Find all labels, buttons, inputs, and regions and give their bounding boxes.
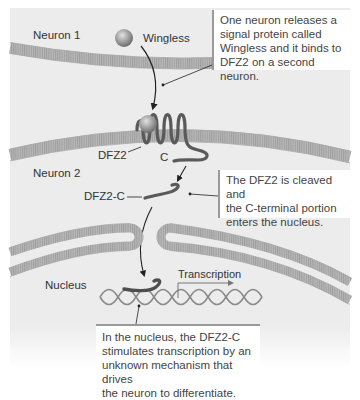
- binding-arrow: [141, 46, 156, 108]
- callout-transcription: In the nucleus, the DFZ2-C stimulates tr…: [96, 324, 260, 386]
- bound-wingless-icon: [139, 115, 157, 133]
- transcription-label: Transcription: [178, 269, 241, 280]
- dna-helix-icon: [100, 290, 262, 305]
- callout2-line: enters the nucleus.: [226, 215, 344, 229]
- dfz2c-label: DFZ2-C: [84, 191, 125, 203]
- callout1-line: One neuron releases a: [220, 13, 346, 27]
- dfz2-label: DFZ2: [98, 150, 127, 162]
- callout3-line: In the nucleus, the DFZ2-C: [102, 330, 254, 344]
- wingless-label: Wingless: [143, 33, 190, 45]
- neuron1-label: Neuron 1: [33, 30, 80, 42]
- transcription-arrow: [178, 283, 232, 298]
- callout1-line: Wingless and it binds to: [220, 41, 346, 55]
- callout2-line: the C-terminal portion: [226, 201, 344, 215]
- callout1-line: signal protein called: [220, 27, 346, 41]
- nucleus-label: Nucleus: [45, 280, 87, 292]
- dfz2c-on-dna-icon: [124, 280, 160, 291]
- c-terminal-label: C: [160, 152, 168, 164]
- callout1-line: DFZ2 on a second neuron.: [220, 55, 346, 83]
- neuron2-label: Neuron 2: [33, 168, 80, 180]
- callout3-line: stimulates transcription by an: [102, 344, 254, 358]
- nuclear-envelope: [10, 224, 350, 305]
- dfz2c-fragment-icon: [145, 184, 178, 198]
- callout2-line: The DFZ2 is cleaved and: [226, 173, 344, 201]
- callout-cleavage: The DFZ2 is cleaved and the C-terminal p…: [218, 170, 350, 218]
- cleavage-arrow: [178, 166, 186, 180]
- callout3-line: the neuron to differentiate.: [102, 386, 254, 400]
- wingless-protein-icon: [115, 29, 133, 47]
- callout3-line: unknown mechanism that drives: [102, 358, 254, 386]
- neuron2-membrane: [10, 129, 350, 163]
- callout-wingless-binding: One neuron releases a signal protein cal…: [212, 10, 352, 70]
